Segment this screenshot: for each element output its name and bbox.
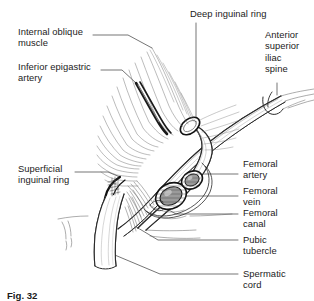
label-femoral-canal: Femoral canal bbox=[243, 207, 278, 230]
label-deep-inguinal-ring: Deep inguinal ring bbox=[190, 8, 266, 19]
anatomical-figure: Internal oblique muscle Inferior epigast… bbox=[0, 0, 314, 301]
fascia-wisps bbox=[58, 216, 88, 250]
label-superficial-inguinal-ring: Superficial inguinal ring bbox=[18, 163, 69, 186]
figure-caption: Fig. 32 bbox=[7, 290, 37, 301]
label-internal-oblique-muscle: Internal oblique muscle bbox=[18, 26, 83, 49]
label-inferior-epigastric-artery: Inferior epigastric artery bbox=[18, 61, 91, 84]
spermatic-cord-distal bbox=[94, 194, 124, 269]
label-anterior-superior-iliac-spine: Anterior superior iliac spine bbox=[265, 29, 299, 75]
label-femoral-vein: Femoral vein bbox=[243, 185, 278, 208]
iliac-extension bbox=[281, 89, 314, 108]
label-pubic-tubercle: Pubic tubercle bbox=[243, 234, 277, 257]
internal-oblique-fibers bbox=[97, 48, 188, 186]
label-spermatic-cord: Spermatic cord bbox=[243, 268, 286, 291]
label-femoral-artery: Femoral artery bbox=[243, 158, 278, 181]
